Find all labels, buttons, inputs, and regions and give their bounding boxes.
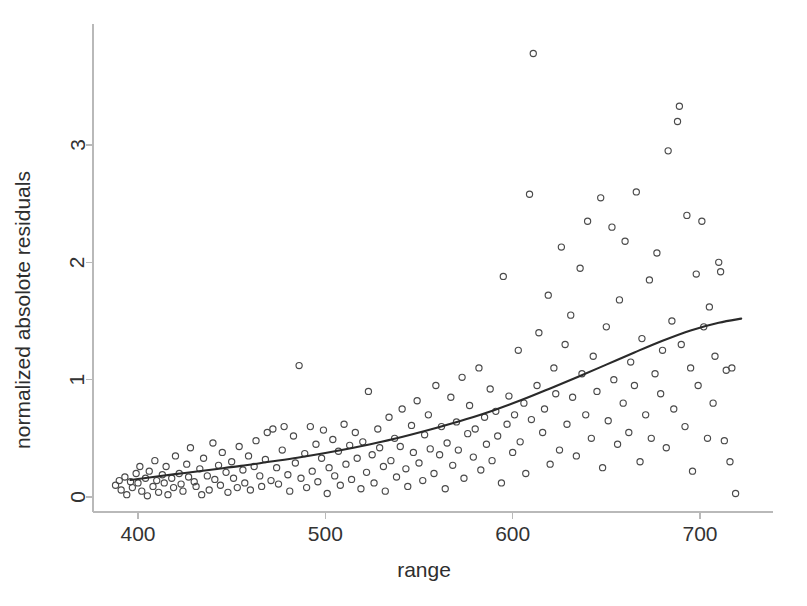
data-point — [253, 438, 259, 444]
data-point — [270, 426, 276, 432]
data-point — [676, 103, 682, 109]
data-point — [693, 271, 699, 277]
data-point — [375, 426, 381, 432]
data-point — [116, 477, 122, 483]
data-point — [133, 470, 139, 476]
data-point — [399, 406, 405, 412]
data-point — [180, 488, 186, 494]
data-point — [405, 483, 411, 489]
data-point — [320, 427, 326, 433]
data-point — [326, 465, 332, 471]
data-point — [498, 480, 504, 486]
data-point — [721, 438, 727, 444]
data-point — [309, 468, 315, 474]
data-point — [122, 474, 128, 480]
data-point — [219, 449, 225, 455]
data-point — [380, 463, 386, 469]
data-point — [330, 436, 336, 442]
data-point — [172, 453, 178, 459]
data-point — [146, 468, 152, 474]
data-point — [448, 394, 454, 400]
data-point — [236, 443, 242, 449]
data-point — [633, 189, 639, 195]
data-point — [304, 485, 310, 491]
data-point — [599, 465, 605, 471]
x-tick-label: 700 — [682, 522, 717, 545]
data-point — [727, 459, 733, 465]
data-point — [614, 441, 620, 447]
data-point — [240, 467, 246, 473]
data-point — [206, 487, 212, 493]
data-point — [124, 492, 130, 498]
data-point — [156, 489, 162, 495]
data-point — [292, 460, 298, 466]
data-point — [605, 418, 611, 424]
x-tick-label: 500 — [308, 522, 343, 545]
data-point — [706, 304, 712, 310]
data-point — [229, 459, 235, 465]
data-point — [365, 388, 371, 394]
data-point — [540, 429, 546, 435]
data-point — [242, 480, 248, 486]
data-point — [245, 453, 251, 459]
data-point — [279, 447, 285, 453]
data-point — [678, 341, 684, 347]
data-point — [341, 421, 347, 427]
data-point — [199, 492, 205, 498]
data-point — [545, 292, 551, 298]
data-point — [337, 482, 343, 488]
data-point — [144, 493, 150, 499]
data-point — [425, 412, 431, 418]
data-point — [622, 238, 628, 244]
data-point — [408, 422, 414, 428]
data-point — [568, 312, 574, 318]
data-point — [712, 353, 718, 359]
data-point — [307, 424, 313, 430]
x-tick-label: 600 — [495, 522, 530, 545]
data-point — [437, 452, 443, 458]
data-point — [556, 447, 562, 453]
data-point — [371, 480, 377, 486]
data-point — [212, 476, 218, 482]
data-point — [187, 445, 193, 451]
data-point — [178, 481, 184, 487]
data-point — [388, 458, 394, 464]
data-point — [585, 218, 591, 224]
data-point — [118, 487, 124, 493]
data-point — [528, 416, 534, 422]
data-point — [541, 406, 547, 412]
data-point — [470, 454, 476, 460]
data-point — [185, 474, 191, 480]
data-point — [313, 441, 319, 447]
data-point — [137, 463, 143, 469]
data-point — [594, 388, 600, 394]
data-point — [609, 224, 615, 230]
data-point — [234, 485, 240, 491]
data-point — [626, 429, 632, 435]
data-point — [343, 461, 349, 467]
data-point — [290, 433, 296, 439]
data-point — [352, 429, 358, 435]
data-point — [139, 488, 145, 494]
data-point — [444, 440, 450, 446]
data-point — [510, 449, 516, 455]
data-point — [264, 429, 270, 435]
data-point — [332, 473, 338, 479]
data-point — [397, 443, 403, 449]
data-point — [296, 362, 302, 368]
data-point — [547, 461, 553, 467]
data-point — [534, 382, 540, 388]
data-point — [718, 269, 724, 275]
data-point — [223, 469, 229, 475]
data-point — [515, 347, 521, 353]
data-point — [553, 391, 559, 397]
data-point — [354, 455, 360, 461]
data-point — [369, 452, 375, 458]
data-point — [628, 359, 634, 365]
data-point — [729, 365, 735, 371]
data-point — [154, 477, 160, 483]
data-point — [710, 400, 716, 406]
data-point — [217, 482, 223, 488]
data-point — [631, 382, 637, 388]
data-point — [161, 480, 167, 486]
